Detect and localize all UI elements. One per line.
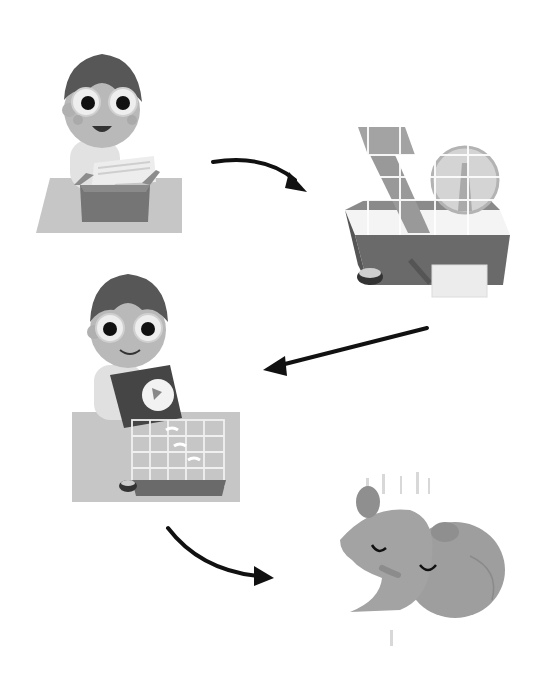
cage-illustration: [340, 125, 530, 300]
step-2-hamster-cage: [340, 125, 530, 300]
curved-arrow-icon: [160, 520, 280, 590]
arrow-step1-to-step2: [205, 150, 315, 200]
straight-arrow-icon: [255, 320, 435, 380]
hamster-illustration: [320, 460, 520, 650]
boy-box-illustration: [30, 40, 190, 240]
arrow-step3-to-step4: [160, 520, 280, 590]
curved-arrow-icon: [205, 150, 315, 200]
arrow-step2-to-step3: [255, 320, 435, 380]
boy-cage-illustration: [70, 270, 240, 502]
step-1-boy-unpacking: [30, 40, 190, 240]
step-3-boy-filling-cage: [70, 270, 240, 502]
step-4-sleeping-hamster: [320, 460, 520, 650]
